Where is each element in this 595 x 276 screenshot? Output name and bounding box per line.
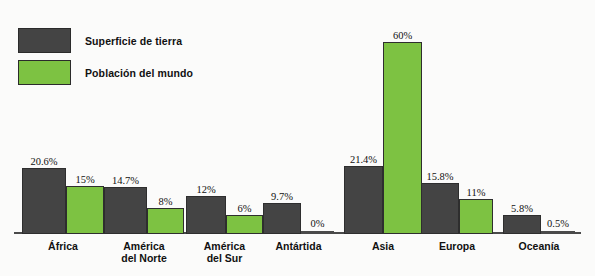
bar-land[interactable]: 5.8%: [503, 215, 541, 234]
bar-group: 9.7%0%Antártida: [263, 233, 334, 234]
plot-area: 20.6%15%África14.7%8%América del Norte12…: [0, 0, 595, 276]
bar-value-label: 5.8%: [511, 203, 533, 214]
bar-value-label: 6%: [238, 203, 252, 214]
bar-value-label: 15.8%: [426, 171, 453, 182]
category-label: América del Norte: [104, 240, 184, 264]
bar-population[interactable]: 15%: [66, 186, 104, 234]
bar-population[interactable]: 8%: [147, 208, 184, 234]
bar-land[interactable]: 15.8%: [421, 183, 459, 234]
bar-group-bars: 14.7%8%: [104, 187, 184, 234]
bar-group: 15.8%11%Europa: [421, 233, 493, 234]
bar-group: 21.4%60%Asia: [344, 233, 422, 234]
category-label: Asia: [344, 240, 422, 252]
bar-land[interactable]: 20.6%: [22, 168, 66, 234]
bar-group-bars: 9.7%0%: [263, 203, 334, 234]
bar-value-label: 21.4%: [350, 154, 377, 165]
bar-value-label: 9.7%: [271, 191, 293, 202]
category-label: Oceanía: [503, 240, 575, 252]
bar-group-bars: 20.6%15%: [22, 168, 104, 234]
bar-value-label: 14.7%: [112, 175, 139, 186]
bar-value-label: 12%: [196, 184, 215, 195]
bar-value-label: 8%: [159, 196, 173, 207]
bar-land[interactable]: 21.4%: [344, 166, 383, 234]
bar-land[interactable]: 12%: [186, 196, 226, 234]
bar-group: 5.8%0.5%Oceanía: [503, 233, 575, 234]
bar-chart: Superficie de tierra Población del mundo…: [0, 0, 595, 276]
bar-group-bars: 12%6%: [186, 196, 263, 234]
bar-population[interactable]: 0.5%: [541, 231, 575, 234]
bar-value-label: 11%: [467, 187, 486, 198]
bar-group: 14.7%8%América del Norte: [104, 233, 184, 234]
bar-value-label: 0.5%: [547, 218, 569, 229]
bar-population[interactable]: 60%: [383, 42, 422, 234]
bar-population[interactable]: 11%: [459, 199, 493, 234]
bar-value-label: 20.6%: [30, 156, 57, 167]
bar-group-bars: 5.8%0.5%: [503, 215, 575, 234]
bar-land[interactable]: 14.7%: [104, 187, 147, 234]
bar-population[interactable]: 6%: [226, 215, 263, 234]
category-label: Europa: [421, 240, 493, 252]
bar-population[interactable]: 0%: [301, 231, 334, 234]
bar-group-bars: 21.4%60%: [344, 42, 422, 234]
category-label: América del Sur: [186, 240, 263, 264]
category-label: África: [22, 240, 104, 252]
bar-value-label: 0%: [311, 218, 325, 229]
bar-value-label: 60%: [393, 30, 412, 41]
bar-group: 20.6%15%África: [22, 233, 104, 234]
bar-value-label: 15%: [75, 174, 94, 185]
category-label: Antártida: [263, 240, 334, 252]
bar-land[interactable]: 9.7%: [263, 203, 301, 234]
bar-group-bars: 15.8%11%: [421, 183, 493, 234]
bar-group: 12%6%América del Sur: [186, 233, 263, 234]
